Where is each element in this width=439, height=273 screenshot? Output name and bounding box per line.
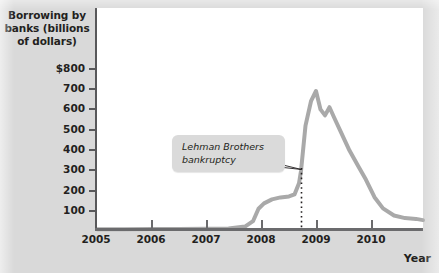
x-tick-mark-2006	[151, 220, 153, 229]
x-tick-label-2005: 2005	[69, 233, 123, 245]
chart-figure: Borrowing by banks (billions of dollars)…	[0, 0, 439, 273]
x-tick-label-2008: 2008	[234, 233, 288, 245]
y-axis-line	[95, 8, 97, 230]
y-tick-label-600: 600	[33, 102, 85, 114]
lehman-bankruptcy-callout-text: Lehman Brothers bankruptcy	[182, 141, 282, 166]
y-tick-mark-100	[89, 210, 97, 212]
x-tick-label-2006: 2006	[124, 233, 178, 245]
x-axis-title: Year	[404, 252, 431, 265]
y-tick-mark-200	[89, 190, 97, 192]
lehman-bankruptcy-callout: Lehman Brothers bankruptcy	[172, 135, 285, 172]
x-tick-label-2007: 2007	[179, 233, 233, 245]
y-tick-label-200: 200	[33, 184, 85, 196]
y-tick-mark-500	[89, 129, 97, 131]
x-tick-label-2009: 2009	[289, 233, 343, 245]
x-tick-mark-2007	[206, 220, 208, 229]
y-tick-mark-700	[89, 88, 97, 90]
y-tick-label-300: 300	[33, 163, 85, 175]
y-tick-mark-400	[89, 149, 97, 151]
y-tick-label-100: 100	[33, 204, 85, 216]
y-tick-label-700: 700	[33, 82, 85, 94]
y-tick-label-400: 400	[33, 143, 85, 155]
y-tick-mark-800	[89, 68, 97, 70]
x-tick-mark-2009	[316, 220, 318, 229]
y-tick-label-500: 500	[33, 123, 85, 135]
x-axis-line	[95, 228, 423, 231]
y-tick-label-800: $800	[33, 62, 85, 74]
y-tick-mark-300	[89, 169, 97, 171]
y-tick-mark-600	[89, 108, 97, 110]
x-tick-mark-2008	[261, 220, 263, 229]
x-tick-label-2010: 2010	[344, 233, 398, 245]
x-tick-mark-2010	[371, 220, 373, 229]
plot-area	[97, 8, 423, 230]
y-axis-title: Borrowing by banks (billions of dollars)	[2, 9, 92, 48]
